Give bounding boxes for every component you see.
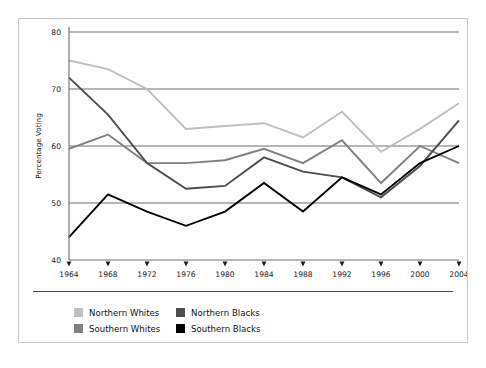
legend-label: Southern Blacks [191,324,261,334]
x-tick-label: 1976 [176,270,195,279]
legend-label: Northern Blacks [191,308,260,318]
legend-separator-line [33,291,453,292]
x-tick-marker [340,262,345,267]
x-tick-label: 1968 [98,270,117,279]
legend-label: Northern Whites [89,308,159,318]
legend-swatch-icon [176,308,185,317]
legend-item-northern-whites[interactable]: Northern Whites [74,305,160,320]
x-tick-label: 1988 [293,270,312,279]
chart-figure: 4050607080196419681972197619801984198819… [18,18,468,343]
x-tick-label: 1996 [371,270,390,279]
y-tick-label: 60 [51,142,61,151]
x-tick-label: 2004 [449,270,467,279]
x-tick-marker [145,262,150,267]
x-tick-marker [223,262,228,267]
x-tick-marker [457,262,462,267]
data-series-group [69,61,459,238]
legend-label: Southern Whites [89,324,160,334]
legend-item-southern-blacks[interactable]: Southern Blacks [176,321,261,336]
x-tick-marker [418,262,423,267]
x-tick-label: 1972 [137,270,156,279]
line-chart-plot: 4050607080196419681972197619801984198819… [19,19,467,291]
y-tick-label: 50 [51,199,61,208]
legend-column-right: Northern BlacksSouthern Blacks [176,305,261,337]
y-tick-label: 80 [51,28,61,37]
x-tick-label: 2000 [410,270,429,279]
x-tick-marker [301,262,306,267]
y-tick-label: 40 [51,256,61,265]
x-axis-ticks: 1964196819721976198019841988199219962000… [59,262,467,280]
legend-swatch-icon [74,308,83,317]
series-line-southern-whites [69,135,459,183]
x-tick-marker [262,262,267,267]
x-tick-label: 1980 [215,270,234,279]
legend-item-southern-whites[interactable]: Southern Whites [74,321,160,336]
y-tick-label: 70 [51,85,61,94]
series-line-southern-blacks [69,146,459,237]
x-tick-marker [379,262,384,267]
legend-column-left: Northern WhitesSouthern Whites [74,305,160,337]
x-tick-label: 1984 [254,270,273,279]
legend-swatch-icon [74,324,83,333]
legend-swatch-icon [176,324,185,333]
x-tick-marker [184,262,189,267]
y-gridlines: 4050607080 [51,28,459,265]
y-axis-title: Percentage Voting [34,113,43,178]
legend-item-northern-blacks[interactable]: Northern Blacks [176,305,261,320]
chart-legend: Northern WhitesSouthern Whites Northern … [19,291,467,343]
x-tick-label: 1964 [59,270,78,279]
x-tick-marker [67,262,72,267]
x-tick-label: 1992 [332,270,351,279]
x-tick-marker [106,262,111,267]
